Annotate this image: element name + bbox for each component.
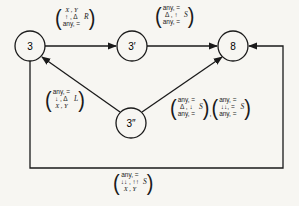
node-8: 8 [218,31,248,61]
edge-label-3prime-to-8: ( any, = Δ , ↑ any, = S ) [155,4,195,25]
left-paren: ( [113,170,120,193]
right-paren: ) [244,95,251,118]
right-paren: ) [188,3,195,26]
right-paren: ) [147,170,154,193]
left-paren: ( [55,5,62,28]
left-paren: ( [211,95,218,118]
node-3-double-prime: 3″ [116,108,146,138]
node-3-prime: 3′ [117,31,147,61]
right-paren: ) [78,87,85,110]
svg-text:3: 3 [27,41,33,52]
edge-label-3-to-3prime: ( X , Y ↑ , Δ any, = R ) [55,6,95,27]
edge-label-3dprime-to-3: ( any, = ↓ , Δ X , Y L ) [45,88,85,109]
svg-text:3′: 3′ [128,41,136,52]
node-3: 3 [15,31,45,61]
left-paren: ( [45,87,52,110]
svg-text:3″: 3″ [126,118,136,129]
edge-label-3-loop-to-8: ( any, = ↓↓ , ↑↑ X , Y S ) [113,171,154,192]
left-paren: ( [170,95,177,118]
svg-text:8: 8 [230,41,236,52]
right-paren: ) [89,5,96,28]
left-paren: ( [155,3,162,26]
right-paren: ) [203,95,210,118]
edge-label-3dprime-to-8: ( any, = Δ , ↓ any, = S ) , ( any, = ↓↓,… [170,96,251,117]
